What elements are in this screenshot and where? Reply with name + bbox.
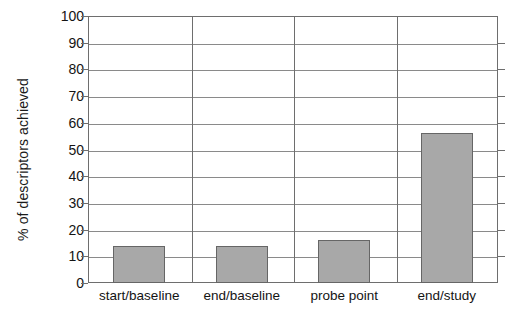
y-tick-mark-right <box>498 96 505 97</box>
y-tick-label: 0 <box>44 275 84 291</box>
y-tick-label: 50 <box>44 142 84 158</box>
bar-start-baseline <box>113 246 165 283</box>
y-tick-label: 100 <box>44 8 84 24</box>
y-axis-title: % of descriptors achieved <box>0 0 46 319</box>
gridline <box>89 97 497 98</box>
x-tick-label: start/baseline <box>99 288 179 303</box>
bar-probe-point <box>318 240 370 283</box>
bar-end-baseline <box>216 246 268 283</box>
y-tick-mark <box>81 150 88 151</box>
gridline <box>89 44 497 45</box>
y-tick-label: 30 <box>44 195 84 211</box>
y-tick-mark-right <box>498 203 505 204</box>
y-tick-mark <box>81 16 88 17</box>
gridline <box>89 124 497 125</box>
y-tick-mark-right <box>498 230 505 231</box>
category-separator <box>192 17 193 282</box>
y-tick-mark-right <box>498 176 505 177</box>
y-tick-mark-right <box>498 256 505 257</box>
bar-end-study <box>421 133 473 283</box>
y-tick-label: 40 <box>44 168 84 184</box>
bar-chart: % of descriptors achieved 01020304050607… <box>0 0 521 319</box>
y-tick-mark-right <box>498 123 505 124</box>
y-tick-mark <box>81 203 88 204</box>
gridline <box>89 70 497 71</box>
y-tick-label: 70 <box>44 88 84 104</box>
y-tick-mark-right <box>498 43 505 44</box>
y-tick-mark <box>81 69 88 70</box>
y-tick-mark <box>81 96 88 97</box>
y-tick-label: 80 <box>44 61 84 77</box>
y-tick-mark <box>81 43 88 44</box>
y-tick-mark <box>81 283 88 284</box>
x-tick-label: probe point <box>310 288 378 303</box>
y-tick-mark <box>81 230 88 231</box>
y-tick-label: 90 <box>44 35 84 51</box>
y-tick-label: 20 <box>44 222 84 238</box>
x-tick-label: end/baseline <box>203 288 280 303</box>
y-tick-mark <box>81 123 88 124</box>
y-tick-label: 60 <box>44 115 84 131</box>
category-separator <box>397 17 398 282</box>
category-separator <box>294 17 295 282</box>
y-tick-mark-right <box>498 69 505 70</box>
y-tick-mark-right <box>498 150 505 151</box>
y-tick-label: 10 <box>44 248 84 264</box>
y-tick-mark <box>81 176 88 177</box>
x-tick-label: end/study <box>417 288 476 303</box>
y-tick-mark <box>81 256 88 257</box>
